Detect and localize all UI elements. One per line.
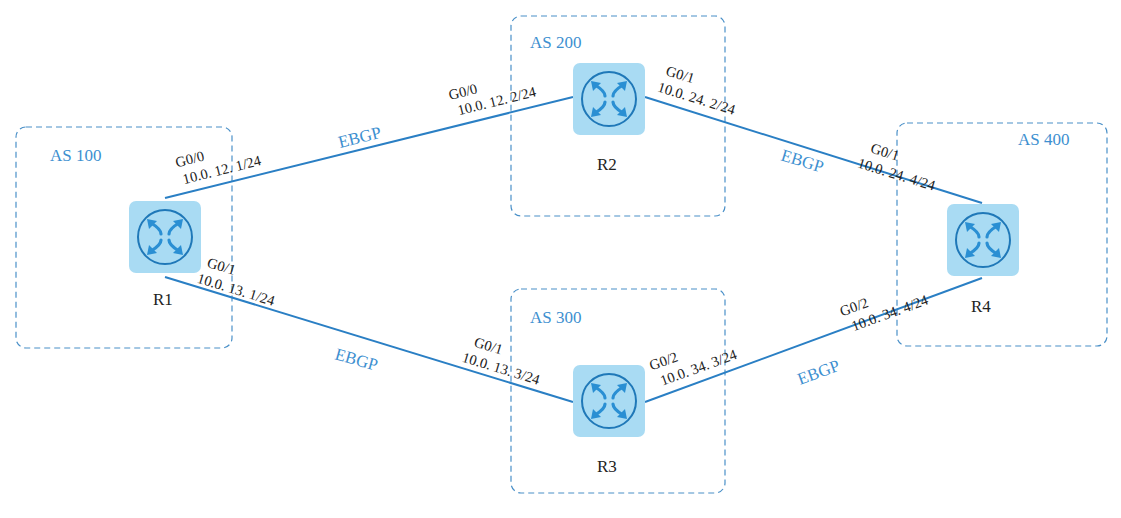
r2-g00-interface-label: G0/0 10.0. 12. 2/24 — [447, 67, 538, 120]
link-r1-r2 — [165, 97, 573, 198]
as-300-label: AS 300 — [530, 308, 581, 327]
router-r4[interactable]: R4 — [947, 204, 1019, 316]
router-icon — [129, 201, 201, 273]
r1-g00-interface-label: G0/0 10.0. 12. 1/24 — [174, 134, 264, 187]
router-icon — [947, 204, 1019, 276]
router-icon — [573, 365, 645, 437]
r2-g01-interface-label: G0/1 10.0. 24. 2/24 — [656, 62, 743, 118]
ebgp-label-r1-r2: EBGP — [336, 123, 383, 152]
as-400-label: AS 400 — [1018, 130, 1069, 149]
ebgp-label-r1-r3: EBGP — [333, 345, 380, 375]
ebgp-label-r3-r4: EBGP — [795, 356, 842, 389]
r3-g02-interface-label: G0/2 10.0. 34. 3/24 — [647, 329, 739, 390]
svg-text:10.0. 24. 2/24: 10.0. 24. 2/24 — [656, 79, 738, 118]
router-r1[interactable]: R1 — [129, 201, 201, 309]
router-r2[interactable]: R2 — [573, 63, 645, 174]
router-r2-label: R2 — [597, 155, 617, 174]
as-200-label: AS 200 — [530, 33, 581, 52]
r4-g02-interface-label: G0/2 10.0. 34. 4/24 — [838, 274, 931, 336]
r4-g01-interface-label: G0/1 10.0. 24. 4/24 — [856, 138, 943, 194]
router-icon — [573, 63, 645, 135]
router-r4-label: R4 — [971, 297, 991, 316]
router-r3[interactable]: R3 — [573, 365, 645, 476]
r3-g01-interface-label: G0/1 10.0. 13. 3/24 — [460, 332, 547, 388]
as-100-label: AS 100 — [50, 146, 101, 165]
router-r1-label: R1 — [153, 290, 173, 309]
router-r3-label: R3 — [597, 457, 617, 476]
svg-text:10.0. 13. 3/24: 10.0. 13. 3/24 — [460, 349, 542, 388]
network-topology-diagram: AS 100 AS 200 AS 300 AS 400 EBGP EBGP EB… — [0, 0, 1121, 518]
link-r1-r3 — [165, 277, 573, 402]
ebgp-label-r2-r4: EBGP — [779, 146, 826, 177]
